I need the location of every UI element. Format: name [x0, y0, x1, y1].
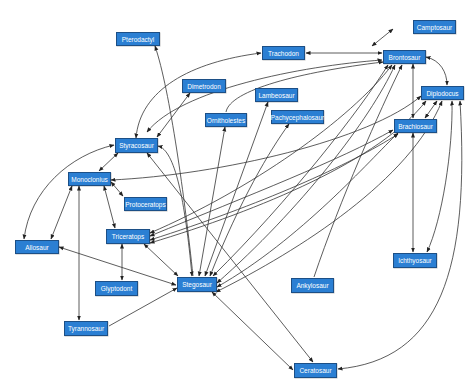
node-label: Ceratosaur	[299, 367, 331, 374]
node-label: Diplodocus	[426, 90, 458, 97]
edge-brontosaur-camptosaur	[372, 29, 393, 46]
edge-brontosaur-diplodocus	[426, 57, 447, 85]
node-dimetrodon[interactable]: Dimetrodon	[182, 79, 226, 93]
edge-stegosaur-ornitholestes	[199, 127, 225, 276]
node-label: Pachycephalosaur	[271, 114, 324, 121]
node-lambeosaur[interactable]: Lambeosaur	[255, 88, 298, 102]
edge-monoclonius-allosaur	[51, 186, 72, 239]
node-label: Protoceratops	[125, 201, 165, 208]
edge-ankylosaur-brontosaur	[314, 65, 402, 277]
node-label: Tyrannosaur	[68, 325, 104, 332]
node-label: Lambeosaur	[258, 92, 294, 99]
node-label: Glyptodont	[101, 285, 132, 292]
node-trachodon[interactable]: Trachodon	[262, 46, 305, 60]
node-triceratops[interactable]: Triceratops	[106, 229, 150, 244]
edge-monoclonius-styracosaur	[99, 153, 118, 171]
edge-stegosaur-brachiosaur	[217, 133, 398, 287]
node-ankylosaur[interactable]: Ankylosaur	[291, 278, 334, 293]
node-label: Monoclonius	[71, 176, 108, 183]
node-label: Brontosaur	[389, 54, 421, 61]
node-label: Pterodactyl	[122, 36, 155, 43]
node-label: Allosaur	[25, 244, 48, 251]
node-label: Stegosaur	[182, 281, 212, 288]
node-pachycephalosaur[interactable]: Pachycephalosaur	[271, 110, 324, 124]
edge-styracosaur-ceratosaur	[147, 153, 313, 362]
edge-stegosaur-ceratosaur	[212, 292, 293, 370]
node-ichthyosaur[interactable]: Ichthyosaur	[393, 253, 437, 268]
node-allosaur[interactable]: Allosaur	[15, 240, 59, 254]
edge-allosaur-stegosaur	[59, 247, 176, 285]
node-camptosaur[interactable]: Camptosaur	[413, 20, 456, 34]
node-monoclonius[interactable]: Monoclonius	[68, 172, 111, 186]
node-label: Ornitholestes	[207, 117, 245, 124]
node-label: Ankylosaur	[296, 282, 328, 289]
edge-group	[24, 29, 462, 370]
node-brontosaur[interactable]: Brontosaur	[383, 50, 426, 64]
node-diplodocus[interactable]: Diplodocus	[421, 86, 464, 100]
edge-monoclonius-triceratops	[104, 186, 115, 228]
node-label: Trachodon	[268, 50, 299, 57]
node-protoceratops[interactable]: Protoceratops	[124, 197, 167, 211]
node-brachiosaur[interactable]: Brachiosaur	[394, 119, 437, 133]
node-glyptodont[interactable]: Glyptodont	[95, 281, 138, 296]
node-ceratosaur[interactable]: Ceratosaur	[294, 363, 337, 378]
node-pterodactyl[interactable]: Pterodactyl	[116, 32, 160, 46]
edge-triceratops-stegosaur	[144, 244, 178, 276]
node-label: Styracosaur	[119, 142, 154, 149]
node-ornitholestes[interactable]: Ornitholestes	[205, 113, 247, 127]
edge-monoclonius-protoceratops	[111, 182, 123, 196]
node-label: Dimetrodon	[187, 83, 221, 90]
edge-ceratosaur-diplodocus	[338, 101, 462, 369]
edge-styracosaur-stegosaur	[158, 146, 192, 276]
node-label: Ichthyosaur	[398, 257, 432, 264]
node-stegosaur[interactable]: Stegosaur	[177, 277, 217, 292]
node-tyrannosaur[interactable]: Tyrannosaur	[64, 321, 108, 336]
node-label: Triceratops	[112, 233, 144, 240]
edge-allosaur-styracosaur	[24, 145, 114, 239]
node-label: Camptosaur	[417, 24, 452, 31]
node-label: Brachiosaur	[398, 123, 433, 130]
node-styracosaur[interactable]: Styracosaur	[115, 138, 158, 153]
dinosaur-graph-canvas: PterodactylCamptosaurTrachodonBrontosaur…	[0, 0, 476, 392]
